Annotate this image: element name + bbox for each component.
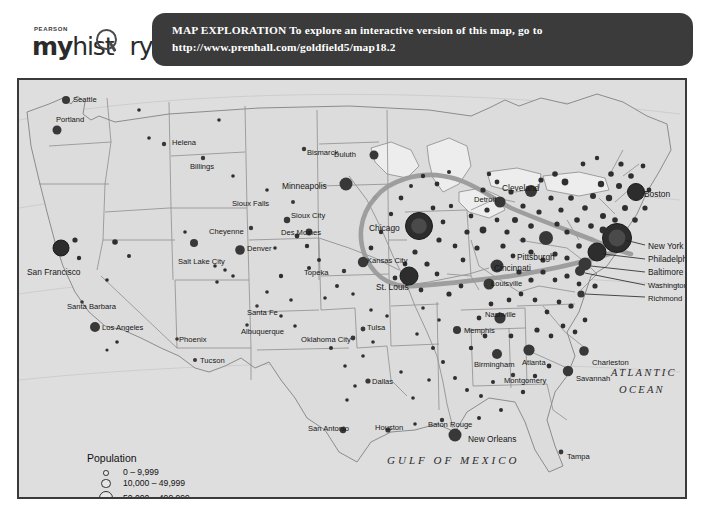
- myhistorylab-logo: PEARSON myhistorylab: [12, 26, 152, 68]
- atlantic-ocean-label: ATLANTIC: [611, 367, 677, 378]
- map-canvas[interactable]: SeattlePortlandHelenaBillingsBismarckDul…: [19, 80, 680, 492]
- banner-line-1: MAP EXPLORATION To explore an interactiv…: [172, 24, 542, 36]
- page-header: PEARSON myhistorylab MAP EXPLORATION To …: [0, 0, 701, 78]
- population-legend-circle: [99, 491, 114, 499]
- banner-url[interactable]: http://www.prenhall.com/goldfield5/map18…: [172, 39, 672, 56]
- map-frame: SeattlePortlandHelenaBillingsBismarckDul…: [17, 78, 687, 499]
- map-exploration-banner: MAP EXPLORATION To explore an interactiv…: [152, 13, 693, 66]
- banner-text: MAP EXPLORATION To explore an interactiv…: [172, 22, 672, 55]
- population-legend-label: 50,000 – 499,999: [123, 493, 190, 499]
- population-legend: Population 0 – 9,99910,000 – 49,99950,00…: [87, 452, 262, 466]
- callout-leaders: [19, 80, 680, 492]
- population-legend-label: 10,000 – 49,999: [123, 478, 185, 488]
- gulf-of-mexico-label: GULF OF MEXICO: [387, 454, 519, 466]
- population-legend-title: Population: [87, 452, 262, 464]
- population-legend-label: 0 – 9,999: [123, 467, 159, 477]
- population-legend-circle: [103, 470, 109, 476]
- atlantic-ocean-label-2: OCEAN: [619, 384, 665, 395]
- logo-my: my: [32, 32, 72, 61]
- population-legend-circle: [101, 479, 111, 489]
